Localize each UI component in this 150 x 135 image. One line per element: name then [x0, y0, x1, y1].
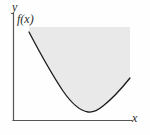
function-label: f(x): [17, 13, 34, 25]
figure-container: y f(x) x: [0, 0, 150, 135]
x-axis-label: x: [132, 112, 137, 124]
shaded-area-under-curve: [29, 27, 130, 112]
